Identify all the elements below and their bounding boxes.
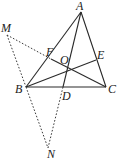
- label-c: C: [108, 82, 117, 96]
- segment-ad: [63, 12, 81, 87]
- label-f: F: [45, 45, 54, 59]
- geometry-diagram: A B C D E F O M N: [0, 0, 121, 166]
- label-b: B: [15, 82, 23, 96]
- point-labels: A B C D E F O M N: [0, 0, 117, 161]
- label-a: A: [75, 0, 84, 13]
- segment-mf: [7, 35, 51, 59]
- segment-bn: [26, 87, 48, 148]
- solid-lines: [26, 12, 106, 87]
- label-n: N: [46, 147, 56, 161]
- label-m: M: [0, 21, 12, 35]
- label-o: O: [60, 53, 69, 67]
- label-e: E: [96, 48, 105, 62]
- segment-nd: [48, 87, 63, 148]
- segment-mb: [7, 35, 26, 87]
- label-d: D: [61, 89, 71, 103]
